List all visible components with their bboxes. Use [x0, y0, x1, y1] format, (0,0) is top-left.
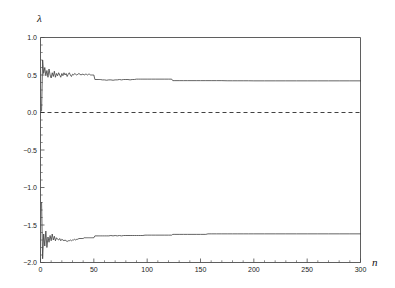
x-tick-label: 200 — [248, 266, 260, 273]
frame-border — [41, 38, 361, 263]
y-tick-label: −1.5 — [23, 222, 37, 229]
y-tick-label: −1.0 — [23, 184, 37, 191]
x-axis: 050100150200250300 — [39, 259, 367, 274]
y-tick-label: −2.0 — [23, 259, 37, 266]
lyapunov-chart-figure: λ n 1.00.50.0−0.5−1.0−1.5−2.0 0501001502… — [0, 0, 395, 288]
x-tick-label: 300 — [355, 266, 367, 273]
series-line-lambda_1 — [42, 60, 361, 111]
data-series-group — [42, 60, 361, 259]
x-tick-label: 0 — [39, 266, 43, 273]
x-tick-label: 100 — [141, 266, 153, 273]
y-tick-label: −0.5 — [23, 147, 37, 154]
y-axis-title: λ — [36, 12, 42, 24]
x-axis-title: n — [372, 256, 378, 268]
x-tick-label: 250 — [301, 266, 313, 273]
x-tick-label: 150 — [195, 266, 207, 273]
chart-canvas: λ n 1.00.50.0−0.5−1.0−1.5−2.0 0501001502… — [0, 0, 395, 288]
y-tick-label: 0.5 — [27, 72, 37, 79]
y-tick-label: 1.0 — [27, 34, 37, 41]
series-line-lambda_2 — [42, 203, 361, 259]
plot-frame — [41, 38, 361, 263]
y-axis: 1.00.50.0−0.5−1.0−1.5−2.0 — [23, 34, 44, 266]
x-tick-label: 50 — [90, 266, 98, 273]
y-tick-label: 0.0 — [27, 109, 37, 116]
